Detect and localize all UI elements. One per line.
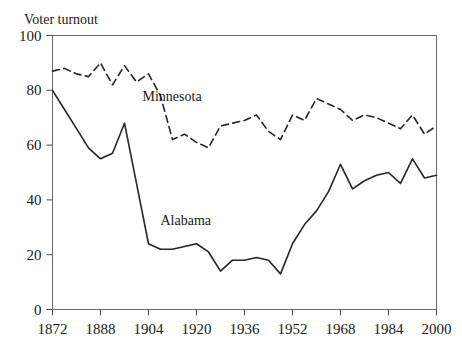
x-axis-tick-label: 1888 bbox=[86, 321, 116, 337]
plot-frame bbox=[53, 36, 437, 310]
chart-svg: Voter turnout 020406080100 1872188819041… bbox=[0, 0, 462, 350]
y-axis-tick-label: 20 bbox=[27, 247, 42, 263]
y-axis-tick-label: 60 bbox=[27, 137, 42, 153]
page-title: Voter turnout bbox=[24, 12, 98, 27]
series-line-minnesota bbox=[53, 63, 437, 148]
x-axis-tick-label: 2000 bbox=[422, 321, 452, 337]
x-axis-tick-label: 1936 bbox=[230, 321, 261, 337]
series-labels-group: MinnesotaAlabama bbox=[143, 89, 212, 227]
series-label-minnesota: Minnesota bbox=[143, 89, 203, 104]
x-axis-tick-label: 1920 bbox=[182, 321, 212, 337]
chart-title-group: Voter turnout bbox=[24, 12, 98, 27]
y-axis-ticks: 020406080100 bbox=[19, 28, 53, 318]
x-axis-tick-label: 1952 bbox=[278, 321, 308, 337]
y-axis-tick-label: 80 bbox=[27, 82, 42, 98]
series-label-alabama: Alabama bbox=[161, 213, 212, 228]
y-axis-tick-label: 100 bbox=[19, 28, 42, 44]
series-line-alabama bbox=[53, 90, 437, 274]
voter-turnout-chart: Voter turnout 020406080100 1872188819041… bbox=[0, 0, 462, 350]
x-axis-tick-label: 1984 bbox=[374, 321, 405, 337]
x-axis-tick-label: 1904 bbox=[134, 321, 165, 337]
x-axis-ticks: 187218881904192019361952196819842000 bbox=[38, 310, 452, 337]
x-axis-tick-label: 1872 bbox=[38, 321, 68, 337]
x-axis-tick-label: 1968 bbox=[326, 321, 356, 337]
y-axis-tick-label: 0 bbox=[34, 302, 42, 318]
y-axis-tick-label: 40 bbox=[27, 192, 42, 208]
series-group bbox=[53, 63, 437, 274]
